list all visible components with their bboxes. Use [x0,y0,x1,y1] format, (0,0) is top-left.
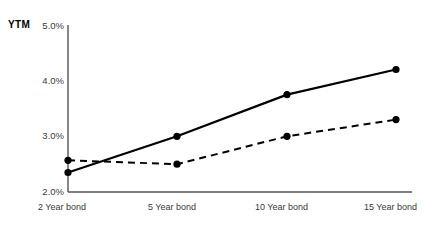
data-point-marker [64,157,71,164]
data-point-marker [283,91,290,98]
series-markers-solid [64,66,399,176]
data-point-marker [392,66,399,73]
plot-area [0,0,433,229]
data-point-marker [173,133,180,140]
series-markers-dashed [64,116,399,168]
series-line-solid [68,70,396,173]
data-point-marker [173,161,180,168]
series-line-dashed [68,120,396,165]
yield-curve-chart: YTM 5.0% 4.0% 3.0% 2.0% 2 Year bond 5 Ye… [0,0,433,229]
data-point-marker [283,133,290,140]
data-point-marker [392,116,399,123]
data-point-marker [64,169,71,176]
